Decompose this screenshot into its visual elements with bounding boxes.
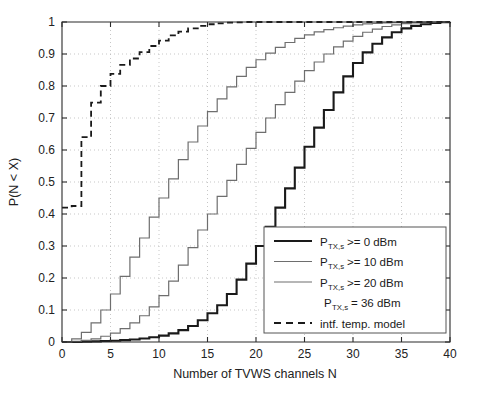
y-tick-label: 0.9 <box>38 47 55 61</box>
legend-label-rest-3: = 36 dBm <box>351 297 401 309</box>
legend-label-subscript-0: TX,s <box>328 242 344 251</box>
x-tick-label: 5 <box>107 347 114 361</box>
x-axis-title: Number of TVWS channels N <box>173 367 337 381</box>
y-tick-label: 1 <box>48 15 55 29</box>
legend-label-base-2: P <box>320 277 328 289</box>
legend-label-rest-0: >= 0 dBm <box>347 236 397 248</box>
legend-label-base-0: P <box>320 236 328 248</box>
y-tick-label: 0.8 <box>38 79 55 93</box>
x-tick-label: 20 <box>249 347 263 361</box>
y-tick-label: 0.1 <box>38 303 55 317</box>
legend-label-base-1: P <box>320 256 328 268</box>
legend-label-subscript-1: TX,s <box>328 262 344 271</box>
y-tick-label: 0.7 <box>38 111 55 125</box>
y-tick-label: 0.3 <box>38 239 55 253</box>
x-tick-label: 15 <box>201 347 215 361</box>
cdf-chart: 0510152025303540 00.10.20.30.40.50.60.70… <box>0 0 483 397</box>
y-axis-title: P(N < X) <box>7 158 21 206</box>
y-tick-labels: 00.10.20.30.40.50.60.70.80.91 <box>38 15 55 349</box>
legend-label-base-3: P <box>324 297 332 309</box>
legend-label-subscript-3: TX,s <box>332 303 348 312</box>
y-tick-label: 0.2 <box>38 271 55 285</box>
x-tick-label: 40 <box>443 347 457 361</box>
x-tick-label: 10 <box>152 347 166 361</box>
x-tick-label: 30 <box>346 347 360 361</box>
figure-container: 0510152025303540 00.10.20.30.40.50.60.70… <box>0 0 483 397</box>
y-tick-label: 0 <box>48 335 55 349</box>
legend-label-rest-4: intf. temp. model <box>320 318 405 330</box>
legend-label-rest-1: >= 10 dBm <box>347 256 403 268</box>
legend[interactable]: PTX,s>= 0 dBmPTX,s>= 10 dBmPTX,s>= 20 dB… <box>264 227 446 333</box>
x-tick-label: 0 <box>59 347 66 361</box>
legend-label-rest-2: >= 20 dBm <box>347 277 403 289</box>
y-tick-label: 0.6 <box>38 143 55 157</box>
x-tick-label: 35 <box>395 347 409 361</box>
x-tick-labels: 0510152025303540 <box>59 347 457 361</box>
y-tick-label: 0.5 <box>38 175 55 189</box>
x-tick-label: 25 <box>298 347 312 361</box>
legend-label-subscript-2: TX,s <box>328 283 344 292</box>
y-tick-label: 0.4 <box>38 207 55 221</box>
